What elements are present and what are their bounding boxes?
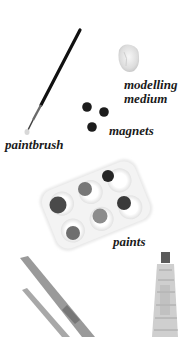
label-paints: paints — [113, 235, 146, 249]
label-medium: medium — [124, 92, 167, 106]
label-magnets: magnets — [109, 124, 154, 138]
tube-icon — [0, 0, 183, 337]
label-paintbrush: paintbrush — [5, 138, 64, 152]
label-modelling: modelling — [124, 78, 177, 92]
